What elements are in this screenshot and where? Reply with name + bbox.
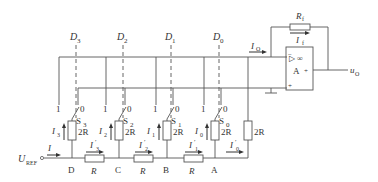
- digital-input-d3: D 3: [69, 31, 81, 45]
- svg-text:′: ′: [144, 138, 146, 146]
- op-amp: ▷ ∞ − − A + +: [286, 47, 313, 90]
- svg-text:0: 0: [236, 146, 239, 152]
- svg-text:O: O: [256, 46, 261, 52]
- svg-text:1: 1: [201, 104, 206, 114]
- current-i3-prime: I ′ 3: [86, 138, 104, 154]
- svg-text:U: U: [18, 153, 26, 164]
- svg-text:I: I: [194, 126, 199, 136]
- resistor-r-dc: R: [85, 155, 104, 176]
- svg-text:R: R: [295, 11, 302, 21]
- ground-bus: [78, 88, 287, 105]
- svg-text:R: R: [139, 166, 146, 176]
- svg-text:2R: 2R: [221, 127, 232, 137]
- svg-text:I: I: [98, 126, 103, 136]
- svg-text:2: 2: [145, 146, 148, 152]
- current-i0-prime: I ′ 0: [226, 138, 244, 154]
- svg-text:3: 3: [57, 132, 60, 138]
- current-i0: I 0: [194, 123, 209, 140]
- svg-text:I: I: [51, 126, 56, 136]
- svg-text:′: ′: [194, 138, 196, 146]
- digital-input-d1: D 1: [164, 31, 176, 45]
- svg-text:2: 2: [104, 132, 107, 138]
- current-i2-prime: I ′ 2: [135, 138, 153, 154]
- resistor-r-ba: R: [184, 155, 203, 176]
- digital-input-d0: D 0: [212, 31, 224, 45]
- current-if: I f: [290, 31, 310, 46]
- svg-text:O: O: [355, 71, 360, 77]
- svg-text:1: 1: [103, 104, 108, 114]
- svg-text:0: 0: [80, 104, 85, 114]
- svg-text:S: S: [123, 116, 128, 126]
- resistor-2r-branch-1: 2R: [163, 121, 184, 158]
- svg-text:S: S: [219, 116, 224, 126]
- node-d: D: [68, 165, 75, 175]
- svg-text:0: 0: [175, 104, 180, 114]
- ground-icon: [265, 88, 277, 93]
- resistor-r-cb: R: [134, 155, 153, 176]
- svg-text:I: I: [47, 143, 52, 153]
- svg-text:−: −: [288, 51, 292, 59]
- svg-text:REF: REF: [26, 160, 38, 166]
- svg-text:1: 1: [56, 104, 61, 114]
- feedback-network: [271, 27, 348, 70]
- resistor-2r-branch-3: 2R: [68, 121, 89, 158]
- current-io: I O: [249, 41, 267, 54]
- reference-input: U REF: [18, 153, 44, 166]
- svg-text:3: 3: [96, 146, 99, 152]
- svg-text:R: R: [90, 166, 97, 176]
- svg-text:I: I: [295, 35, 300, 45]
- node-b: B: [163, 165, 169, 175]
- svg-text:3: 3: [77, 37, 81, 45]
- svg-text:+: +: [304, 67, 308, 75]
- svg-text:2: 2: [124, 37, 128, 45]
- svg-text:2R: 2R: [78, 127, 89, 137]
- svg-text:S: S: [171, 116, 176, 126]
- svg-text:1: 1: [152, 132, 155, 138]
- svg-text:S: S: [76, 116, 81, 126]
- current-i2: I 2: [98, 123, 113, 140]
- svg-text:1: 1: [153, 104, 158, 114]
- current-i1: I 1: [146, 123, 161, 140]
- svg-text:0: 0: [200, 132, 203, 138]
- svg-text:I: I: [250, 41, 255, 51]
- svg-text:1: 1: [172, 37, 176, 45]
- resistor-rf: R f: [290, 11, 310, 30]
- node-a: A: [211, 165, 218, 175]
- digital-input-d2: D 2: [116, 31, 128, 45]
- current-i1-prime: I ′ 1: [185, 138, 203, 154]
- svg-text:′: ′: [95, 138, 97, 146]
- svg-text:2R: 2R: [125, 127, 136, 137]
- svg-text:+: +: [288, 82, 292, 90]
- svg-text:1: 1: [195, 146, 198, 152]
- svg-text:2R: 2R: [254, 127, 265, 137]
- svg-text:I: I: [229, 140, 234, 150]
- dac-circuit-diagram: D 3 D 2 D 1 D 0 1 0 S 3 1 0: [0, 0, 378, 182]
- svg-text:′: ′: [235, 138, 237, 146]
- svg-text:I: I: [89, 140, 94, 150]
- svg-text:f: f: [302, 16, 304, 22]
- current-i3: I 3: [51, 123, 66, 140]
- node-c: C: [115, 165, 121, 175]
- svg-text:0: 0: [127, 104, 132, 114]
- svg-text:I: I: [138, 140, 143, 150]
- current-i: I: [47, 143, 61, 157]
- svg-text:0: 0: [220, 37, 224, 45]
- svg-text:R: R: [188, 166, 195, 176]
- output-uo: u O: [350, 65, 360, 77]
- svg-text:A: A: [293, 66, 300, 76]
- svg-text:2R: 2R: [173, 127, 184, 137]
- svg-text:I: I: [146, 126, 151, 136]
- svg-text:0: 0: [223, 104, 228, 114]
- resistor-2r-branch-2: 2R: [115, 121, 136, 158]
- svg-text:f: f: [302, 40, 304, 46]
- svg-text:I: I: [188, 140, 193, 150]
